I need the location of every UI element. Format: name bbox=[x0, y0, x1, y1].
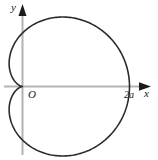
origin-label: O bbox=[28, 88, 36, 100]
x-intercept-label: 2a bbox=[124, 89, 134, 100]
cardioid-figure: y x O 2a bbox=[0, 0, 158, 160]
y-axis-arrow-icon bbox=[19, 4, 27, 16]
y-axis-label: y bbox=[10, 1, 16, 13]
figure-canvas: y x O 2a bbox=[0, 0, 158, 160]
x-axis-label: x bbox=[143, 87, 149, 99]
